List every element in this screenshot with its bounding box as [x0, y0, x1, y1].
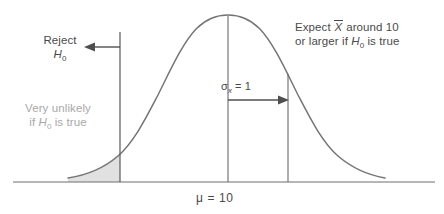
expect-label-line2-suffix: is true [364, 35, 399, 47]
mu-equals-value: = 10 [204, 191, 234, 205]
mu-symbol: μ [196, 191, 204, 205]
sigma-equals-value: = 1 [232, 80, 251, 92]
expect-label-h-symbol: H [351, 35, 359, 47]
reject-h0-label: Reject H0 [34, 33, 86, 63]
reject-label-subscript: 0 [62, 54, 66, 63]
expect-label-xbar-symbol: X [334, 20, 343, 33]
expect-label-suffix: around 10 [343, 21, 399, 33]
unlikely-label-prefix: if [29, 116, 38, 128]
expect-label-prefix: Expect [295, 21, 334, 33]
expect-label-line2-prefix: or larger if [295, 35, 351, 47]
expect-label-h-subscript: 0 [360, 41, 364, 50]
reject-label-line1: Reject [43, 34, 76, 46]
mean-axis-label: μ = 10 [196, 191, 234, 205]
unlikely-label-line1: Very unlikely [25, 102, 91, 114]
expect-xbar-label: Expect X around 10 or larger if H0 is tr… [295, 20, 399, 50]
very-unlikely-label: Very unlikely if H0 is true [10, 101, 106, 131]
sigma-subscript: x [228, 86, 232, 95]
hypothesis-test-distribution-figure: Reject H0 Very unlikely if H0 is true Ex… [0, 0, 444, 214]
rejection-region-shading [68, 153, 120, 182]
sigma-symbol: σ [221, 80, 228, 92]
standard-error-label: σx = 1 [221, 79, 251, 95]
sigma-arrow-head-icon [278, 96, 289, 105]
unlikely-label-suffix: is true [51, 116, 86, 128]
unlikely-label-subscript: 0 [47, 122, 51, 131]
reject-label-symbol: H [54, 48, 62, 60]
unlikely-label-symbol: H [39, 116, 47, 128]
